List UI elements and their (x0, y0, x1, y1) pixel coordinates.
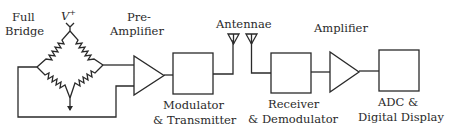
label-pre: Pre- (127, 11, 151, 24)
label-digital-display: Digital Display (358, 111, 444, 124)
label-amplifier: Amplifier (314, 22, 368, 35)
label-demodulator: & Demodulator (248, 113, 338, 126)
label-full: Full (12, 11, 35, 24)
full-bridge (37, 23, 103, 111)
signal-chain-diagram: Full Bridge V+ Pre- Amplifier Antennae M… (0, 0, 455, 135)
wire-antenna-to-receiver (252, 40, 272, 73)
adc-digital-display-box (379, 50, 419, 91)
resistor-icon (70, 31, 103, 65)
label-modulator: Modulator (163, 99, 224, 112)
wire-modulator-to-antenna (213, 40, 233, 74)
preamplifier-triangle-icon (134, 56, 164, 95)
label-receiver: Receiver (268, 98, 319, 111)
label-supply-voltage: V+ (61, 6, 76, 23)
supply-terminal-icon (66, 23, 74, 31)
label-antennae: Antennae (216, 18, 272, 31)
supply-superscript: + (69, 8, 76, 17)
amplifier-triangle-icon (330, 52, 359, 92)
label-amplifier-pre: Amplifier (110, 25, 164, 38)
label-adc: ADC & (378, 96, 418, 109)
modulator-transmitter-box (173, 53, 213, 94)
wire-bridge-left-loop (18, 67, 134, 117)
resistor-icon (70, 65, 103, 98)
label-transmitter: & Transmitter (153, 114, 236, 127)
antenna-tx-icon (228, 34, 239, 44)
resistor-icon (37, 67, 70, 98)
receiver-demodulator-box (271, 53, 311, 93)
label-bridge: Bridge (5, 25, 44, 38)
ground-arrowhead-icon (67, 106, 73, 111)
